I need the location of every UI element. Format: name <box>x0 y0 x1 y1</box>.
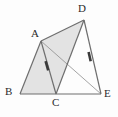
vertex-label-d: D <box>78 3 86 14</box>
tick-mark-on-de-icon <box>89 52 91 61</box>
vertex-label-a: A <box>31 28 39 39</box>
vertex-label-e: E <box>104 88 111 99</box>
vertex-label-c: C <box>52 97 59 108</box>
vertex-label-b: B <box>5 86 12 97</box>
segment-de <box>84 20 101 94</box>
geometry-figure: A B C D E <box>0 0 118 117</box>
